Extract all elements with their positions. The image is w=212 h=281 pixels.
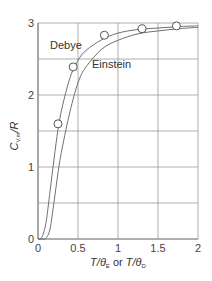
x-tick-label: 2 — [195, 242, 201, 254]
x-tick-label: 0 — [35, 242, 41, 254]
data-points — [54, 22, 180, 128]
data-point-circle — [69, 63, 77, 71]
y-tick-label: 1 — [28, 161, 34, 173]
data-point-circle — [172, 22, 180, 30]
grid — [38, 23, 198, 239]
x-tick-label: 0.5 — [70, 242, 85, 254]
axis-ticks: 00.511.520123 — [28, 17, 201, 254]
data-point-circle — [138, 25, 146, 33]
einstein-label: Einstein — [92, 58, 131, 70]
y-tick-label: 2 — [28, 89, 34, 101]
data-point-circle — [54, 120, 62, 128]
x-tick-label: 1.5 — [150, 242, 165, 254]
debye-label: Debye — [50, 39, 82, 51]
data-point-circle — [100, 31, 108, 39]
heat-capacity-chart: 00.511.520123 Debye Einstein CV,m/R T/θE… — [0, 0, 212, 281]
y-axis-label: CV,m/R — [8, 121, 21, 150]
x-tick-label: 1 — [115, 242, 121, 254]
y-tick-label: 3 — [28, 17, 34, 29]
y-tick-label: 0 — [28, 233, 34, 245]
x-axis-label: T/θE or T/θD — [90, 256, 146, 269]
